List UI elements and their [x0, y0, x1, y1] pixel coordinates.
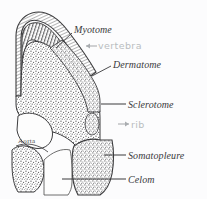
body-wall-left: [12, 146, 44, 192]
label-celom: Celom: [128, 175, 155, 185]
arrow-rib-icon: [118, 122, 129, 127]
label-somatopleure: Somatopleure: [128, 151, 184, 161]
label-dermatome: Dermatome: [113, 60, 161, 70]
label-vertebra: vertebra: [98, 41, 142, 51]
label-rib: rib: [131, 120, 145, 130]
somatopleure-flap: [72, 139, 114, 195]
label-myotome: Myotome: [74, 25, 112, 35]
arrow-vertebra-icon: [86, 44, 97, 49]
rib-condensation: [85, 113, 99, 135]
figure-page: Myotome vertebra Dermatome Sclerotome ri…: [0, 0, 207, 199]
label-sclerotome: Sclerotome: [128, 100, 174, 110]
label-aorta: Aorta: [18, 138, 35, 145]
celom-cavity: [44, 149, 72, 195]
